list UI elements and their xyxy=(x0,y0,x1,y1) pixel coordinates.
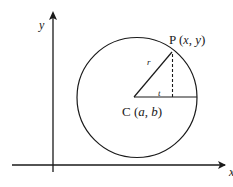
center-c-label: C (a, b) xyxy=(122,104,162,119)
y-axis: y xyxy=(38,11,57,172)
point-p-label: P (x, y) xyxy=(169,32,205,47)
radius-line xyxy=(134,52,172,97)
x-axis: x xyxy=(12,161,233,179)
radius-label: r xyxy=(147,57,151,67)
x-axis-label: x xyxy=(228,165,233,179)
circle-diagram: x y r t P (x, y) C (a, b) xyxy=(0,0,233,187)
y-axis-label: y xyxy=(38,18,45,32)
